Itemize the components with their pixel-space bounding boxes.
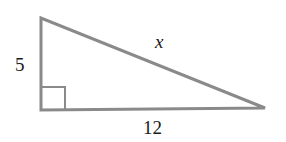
triangle-shape	[41, 18, 265, 110]
horizontal-leg-label: 12	[143, 118, 162, 137]
triangle-diagram: 5 x 12	[0, 0, 286, 142]
hypotenuse-label: x	[155, 32, 163, 51]
vertical-leg-label: 5	[15, 55, 25, 74]
right-angle-marker	[41, 87, 65, 110]
